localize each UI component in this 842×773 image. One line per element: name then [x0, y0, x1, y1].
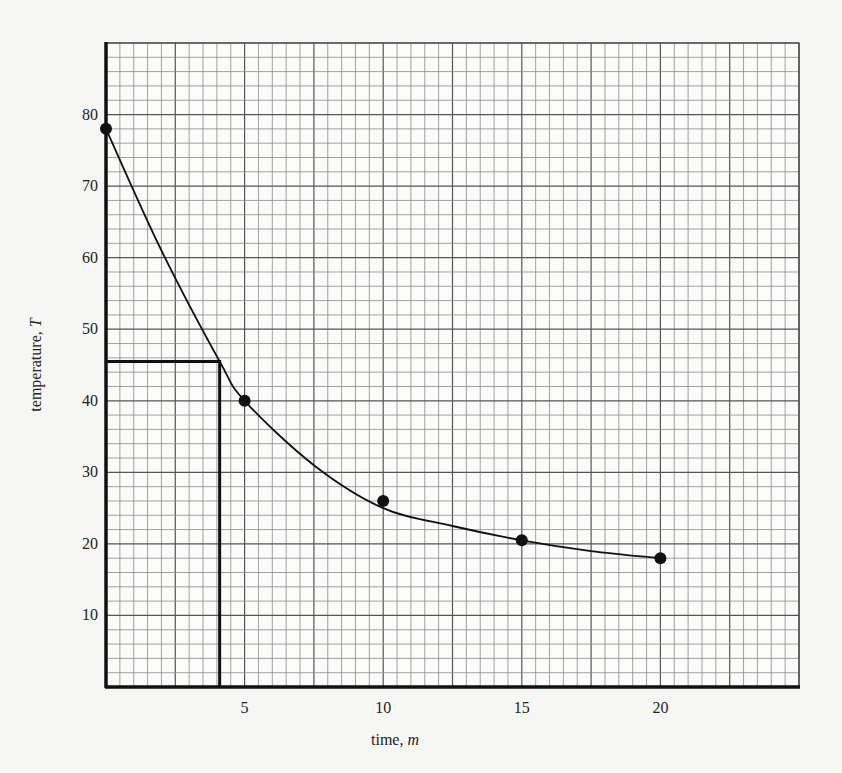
x-tick-label: 15	[514, 699, 530, 716]
data-point	[516, 534, 528, 546]
y-tick-label: 70	[82, 177, 98, 194]
y-tick-label: 20	[82, 535, 98, 552]
data-point	[654, 552, 666, 564]
chart: 1020304050607080 5101520 time, m tempera…	[0, 0, 842, 773]
data-point	[239, 395, 251, 407]
y-tick-label: 40	[82, 392, 98, 409]
y-axis-label: temperature, T	[27, 317, 45, 411]
x-axis-label: time, m	[371, 731, 419, 748]
x-tick-label: 10	[375, 699, 391, 716]
y-tick-label: 30	[82, 463, 98, 480]
x-tick-label: 20	[652, 699, 668, 716]
graph-paper-grid	[106, 43, 799, 687]
y-tick-label: 60	[82, 249, 98, 266]
data-point	[377, 495, 389, 507]
y-tick-labels: 1020304050607080	[82, 106, 98, 624]
x-tick-labels: 5101520	[241, 699, 669, 716]
y-tick-label: 50	[82, 320, 98, 337]
y-tick-label: 80	[82, 106, 98, 123]
x-tick-label: 5	[241, 699, 249, 716]
y-tick-label: 10	[82, 606, 98, 623]
